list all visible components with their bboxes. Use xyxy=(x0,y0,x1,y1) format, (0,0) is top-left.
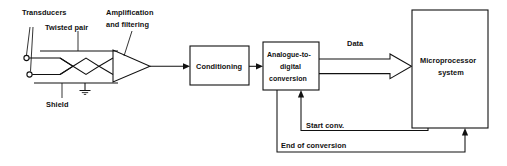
diagram-canvas: Transducers Twisted pair Shield Amplific… xyxy=(0,0,507,166)
transducer-terminal-bottom-icon xyxy=(27,72,32,77)
transducers-leader-lines xyxy=(27,27,34,72)
end-of-conversion-label: End of conversion xyxy=(281,141,347,150)
twisted-pair-icon xyxy=(60,58,113,75)
ground-symbol-icon xyxy=(80,83,91,94)
shield-lines xyxy=(34,51,118,83)
shield-label: Shield xyxy=(46,100,69,109)
amp-to-conditioning-connector xyxy=(150,63,190,69)
microprocessor-block-label-line2: system xyxy=(438,68,464,77)
amplification-leader-line xyxy=(124,31,132,56)
start-conversion-label: Start conv. xyxy=(306,121,344,130)
amplification-label: Amplification xyxy=(106,8,154,17)
transducer-terminal-top-icon xyxy=(24,55,29,60)
data-label: Data xyxy=(347,39,364,48)
transducer-leads xyxy=(29,58,60,75)
conditioning-to-adc-connector xyxy=(249,63,263,69)
transducers-label: Transducers xyxy=(22,8,67,17)
twisted-pair-label: Twisted pair xyxy=(45,23,88,32)
data-bus-arrow-icon xyxy=(319,54,412,79)
adc-block-label-line3: conversion xyxy=(269,75,307,82)
block-diagram: Transducers Twisted pair Shield Amplific… xyxy=(0,0,507,166)
adc-block-label-line1: Analogue-to- xyxy=(267,51,311,59)
adc-block-label-line2: digital xyxy=(280,63,301,71)
amplifier-triangle-icon xyxy=(113,50,150,82)
microprocessor-block-label-line1: Microprocessor xyxy=(420,56,476,65)
conditioning-block-label: Conditioning xyxy=(196,62,243,71)
filtering-label: and filtering xyxy=(106,20,149,29)
